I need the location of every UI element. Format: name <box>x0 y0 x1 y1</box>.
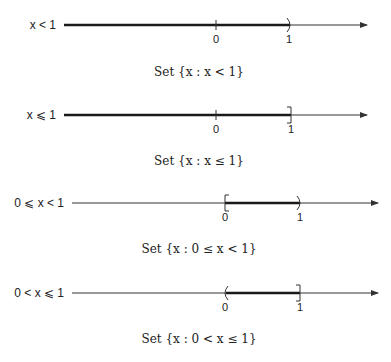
tick-label-one: 1 <box>297 211 303 223</box>
tick-label-zero: 0 <box>222 211 228 223</box>
tick-label-zero: 0 <box>213 33 219 45</box>
set-caption: Set {x : x < 1} <box>154 65 244 79</box>
tick-label-one: 1 <box>286 33 292 45</box>
number-line-diagram: x < 1 0 1 Set {x : x < 1} x ⩽ 1 0 1 Set … <box>0 0 391 362</box>
inequality-label: 0 < x ⩽ 1 <box>14 286 64 300</box>
set-caption: Set {x : x ≤ 1} <box>154 154 244 168</box>
panel-zero-le-x-lt-1: 0 ⩽ x < 1 0 1 Set {x : 0 ≤ x < 1} <box>14 195 378 256</box>
panel-x-less-or-equal-1: x ⩽ 1 0 1 Set {x : x ≤ 1} <box>27 107 367 168</box>
inequality-label: 0 ⩽ x < 1 <box>14 196 64 210</box>
set-caption: Set {x : 0 ≤ x < 1} <box>141 242 256 256</box>
tick-label-one: 1 <box>297 301 303 313</box>
tick-label-one: 1 <box>288 123 294 135</box>
panel-zero-lt-x-le-1: 0 < x ⩽ 1 0 1 Set {x : 0 < x ≤ 1} <box>14 285 378 346</box>
set-caption: Set {x : 0 < x ≤ 1} <box>141 332 256 346</box>
panel-x-less-than-1: x < 1 0 1 Set {x : x < 1} <box>30 18 367 79</box>
tick-label-zero: 0 <box>222 301 228 313</box>
inequality-label: x ⩽ 1 <box>27 108 57 122</box>
inequality-label: x < 1 <box>30 18 57 32</box>
tick-label-zero: 0 <box>213 123 219 135</box>
